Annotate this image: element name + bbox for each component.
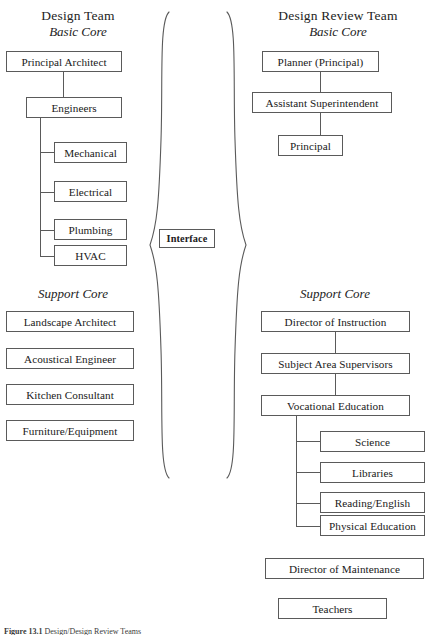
left-column-subtitle: Basic Core bbox=[8, 24, 148, 39]
node-vocational-education[interactable]: Vocational Education bbox=[261, 395, 410, 416]
connector-vocational-to-physical-education bbox=[296, 526, 321, 527]
node-planner-principal[interactable]: Planner (Principal) bbox=[262, 51, 379, 72]
node-plumbing[interactable]: Plumbing bbox=[54, 219, 127, 240]
node-assistant-superintendent[interactable]: Assistant Superintendent bbox=[252, 92, 392, 113]
node-teachers[interactable]: Teachers bbox=[278, 598, 387, 619]
connector-engineers-to-plumbing bbox=[40, 230, 55, 231]
right-support-core-label: Support Core bbox=[255, 286, 415, 301]
connector-supervisors-to-vocational bbox=[335, 374, 336, 395]
node-landscape-architect[interactable]: Landscape Architect bbox=[6, 311, 134, 332]
node-kitchen-consultant[interactable]: Kitchen Consultant bbox=[6, 384, 134, 405]
figure-caption-number: Figure 13.1 bbox=[4, 627, 43, 635]
right-column-title: Design Review Team bbox=[248, 8, 428, 23]
connector-engineers-trunk bbox=[40, 118, 41, 256]
node-science[interactable]: Science bbox=[320, 431, 425, 452]
node-subject-area-supervisors[interactable]: Subject Area Supervisors bbox=[261, 353, 410, 374]
node-reading-english[interactable]: Reading/English bbox=[320, 492, 425, 513]
right-curly-brace-icon bbox=[222, 10, 248, 480]
node-mechanical[interactable]: Mechanical bbox=[54, 142, 127, 163]
node-physical-education[interactable]: Physical Education bbox=[320, 515, 425, 536]
node-electrical[interactable]: Electrical bbox=[54, 181, 127, 202]
node-principal[interactable]: Principal bbox=[278, 135, 343, 156]
figure-caption-text: Design/Design Review Teams bbox=[45, 627, 142, 635]
node-engineers[interactable]: Engineers bbox=[26, 97, 122, 118]
connector-assistant-superintendent-to-principal bbox=[320, 113, 321, 135]
node-director-of-maintenance[interactable]: Director of Maintenance bbox=[265, 558, 424, 579]
node-furniture-equipment[interactable]: Furniture/Equipment bbox=[6, 420, 134, 441]
connector-engineers-to-electrical bbox=[40, 192, 55, 193]
left-column-title: Design Team bbox=[8, 8, 148, 23]
connector-principal-architect-to-engineers bbox=[63, 72, 64, 97]
connector-vocational-to-reading-english bbox=[296, 503, 321, 504]
org-chart-figure: Design Team Basic Core Principal Archite… bbox=[0, 0, 432, 635]
right-column-subtitle: Basic Core bbox=[248, 24, 428, 39]
figure-caption: Figure 13.1 Design/Design Review Teams bbox=[4, 627, 254, 635]
left-support-core-label: Support Core bbox=[6, 286, 140, 301]
node-interface[interactable]: Interface bbox=[159, 229, 215, 248]
node-principal-architect[interactable]: Principal Architect bbox=[6, 51, 122, 72]
connector-engineers-to-mechanical bbox=[40, 152, 55, 153]
connector-vocational-to-libraries bbox=[296, 472, 321, 473]
connector-engineers-to-hvac bbox=[40, 256, 55, 257]
node-director-of-instruction[interactable]: Director of Instruction bbox=[261, 311, 410, 332]
connector-vocational-trunk bbox=[296, 416, 297, 526]
connector-vocational-to-science bbox=[296, 441, 321, 442]
node-hvac[interactable]: HVAC bbox=[54, 245, 127, 266]
connector-planner-to-assistant-superintendent bbox=[320, 72, 321, 92]
node-acoustical-engineer[interactable]: Acoustical Engineer bbox=[6, 348, 134, 369]
connector-director-to-supervisors bbox=[335, 332, 336, 353]
node-libraries[interactable]: Libraries bbox=[320, 462, 425, 483]
